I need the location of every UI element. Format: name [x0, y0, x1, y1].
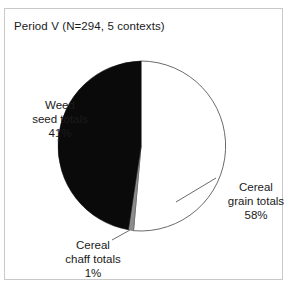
slice-label-cereal-chaff-line1: Cereal — [38, 238, 148, 252]
slice-value-cereal-grain: 58% — [222, 208, 290, 222]
pie-slice-weed-seed[interactable] — [58, 61, 141, 230]
slice-label-cereal-grain-line2: grain totals — [222, 194, 290, 208]
slice-label-cereal-grain-line1: Cereal — [222, 180, 290, 194]
slice-label-cereal-chaff-line2: chaff totals — [38, 252, 148, 266]
slice-label-weed-seed: Weed seed totals 41% — [10, 98, 110, 140]
slice-label-cereal-chaff: Cereal chaff totals 1% — [38, 238, 148, 280]
slice-value-weed-seed: 41% — [10, 126, 110, 140]
slice-label-cereal-grain: Cereal grain totals 58% — [222, 180, 290, 222]
slice-label-weed-seed-line2: seed totals — [10, 112, 110, 126]
pie-chart-figure: Period V (N=294, 5 contexts) Weed seed t… — [0, 0, 290, 287]
slice-label-weed-seed-line1: Weed — [10, 98, 110, 112]
pie-slice-cereal-grain[interactable] — [134, 61, 226, 231]
slice-value-cereal-chaff: 1% — [38, 266, 148, 280]
